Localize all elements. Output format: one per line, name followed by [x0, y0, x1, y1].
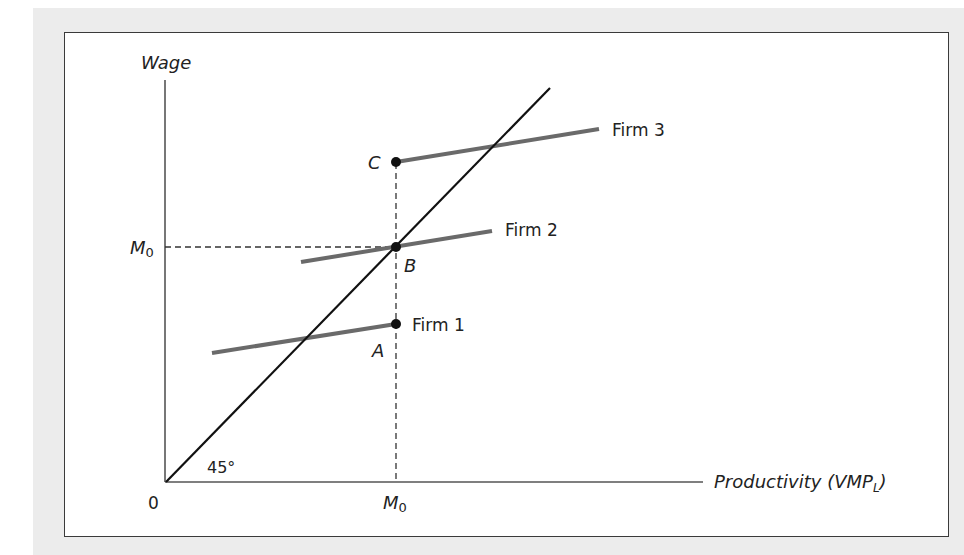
- point-b-label: B: [404, 255, 416, 276]
- firm-3-line: [396, 129, 599, 162]
- x-axis-m0-label: M0: [383, 492, 407, 515]
- origin-label: 0: [148, 493, 159, 513]
- angle-label: 45°: [207, 458, 235, 477]
- point-c: [391, 157, 401, 167]
- firm-1-line: [212, 324, 396, 353]
- point-c-label: C: [368, 152, 381, 173]
- point-a-label: A: [371, 340, 384, 361]
- firm-1-label: Firm 1: [412, 315, 465, 335]
- firm-3-label: Firm 3: [612, 120, 665, 140]
- x-axis-label: Productivity (VMPL): [714, 471, 887, 495]
- y-axis-label: Wage: [141, 52, 191, 73]
- point-a: [391, 319, 401, 329]
- wage-productivity-diagram: Wage M0 0 45° M0 Productivity (VMPL) C B…: [0, 0, 964, 555]
- point-b: [391, 242, 401, 252]
- 45-degree-line: [166, 88, 550, 482]
- firm-2-label: Firm 2: [505, 220, 558, 240]
- y-axis-m0-label: M0: [130, 237, 154, 260]
